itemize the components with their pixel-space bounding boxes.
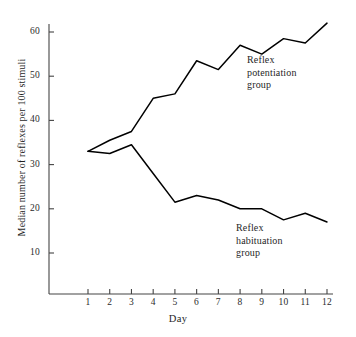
annot-line: group [247, 79, 342, 92]
annot-line: habituation [236, 235, 336, 248]
x-tick-label: 5 [167, 297, 183, 307]
annot-line: Reflex [236, 222, 336, 235]
x-tick-label: 4 [145, 297, 161, 307]
x-tick-label: 9 [254, 297, 270, 307]
line-chart-figure: 102030405060 123456789101112 Median numb… [0, 0, 356, 337]
y-tick-marks [49, 32, 54, 253]
x-axis-title: Day [0, 313, 356, 324]
x-tick-label: 8 [232, 297, 248, 307]
annot-line: potentiation [247, 67, 342, 80]
series-line-reflex-habituation-group [88, 145, 327, 222]
plot-area [0, 0, 356, 337]
y-tick-label: 60 [18, 26, 40, 36]
x-tick-label: 1 [80, 297, 96, 307]
x-tick-label: 12 [319, 297, 335, 307]
x-tick-marks [88, 289, 327, 294]
y-tick-label: 10 [18, 247, 40, 257]
annot-line: group [236, 247, 336, 260]
annot-line: Reflex [247, 54, 342, 67]
x-tick-label: 10 [276, 297, 292, 307]
series-annotation-reflex-habituation-group: Reflex habituation group [236, 222, 336, 260]
x-tick-label: 11 [297, 297, 313, 307]
y-axis-title: Median number of reflexes per 100 stimul… [16, 48, 27, 248]
x-tick-label: 2 [102, 297, 118, 307]
x-tick-label: 6 [189, 297, 205, 307]
series-annotation-reflex-potentiation-group: Reflex potentiation group [247, 54, 342, 92]
x-tick-label: 3 [123, 297, 139, 307]
x-tick-label: 7 [210, 297, 226, 307]
